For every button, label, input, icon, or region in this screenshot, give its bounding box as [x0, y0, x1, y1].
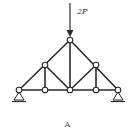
joint-bottom-center — [67, 87, 73, 93]
joint-upper-right — [93, 62, 99, 68]
diagonal-right — [70, 65, 96, 90]
diagonal-left — [45, 65, 70, 90]
right-pin-support-icon — [111, 92, 125, 102]
joint-right-support — [115, 87, 121, 93]
joint-apex — [67, 37, 73, 43]
joint-left-support — [16, 87, 22, 93]
truss-diagram — [0, 0, 135, 135]
joint-bottom-right — [93, 87, 99, 93]
figure-caption: A — [0, 120, 135, 129]
load-label: 2P — [77, 7, 87, 16]
joint-upper-left — [42, 62, 48, 68]
left-pin-support-icon — [12, 92, 26, 102]
joint-bottom-left — [42, 87, 48, 93]
load-arrow-icon — [67, 3, 74, 37]
